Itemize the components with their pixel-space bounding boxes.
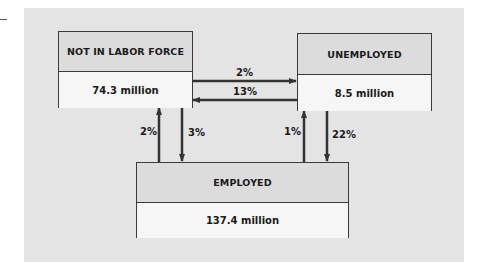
node-title: NOT IN LABOR FORCE — [59, 32, 192, 72]
node-value: 8.5 million — [298, 75, 431, 111]
node-employed: EMPLOYED 137.4 million — [136, 162, 349, 238]
flow-label-employed-to-nlf: 2% — [140, 126, 157, 137]
flow-label-nlf-to-unemployed: 2% — [236, 67, 253, 78]
flow-label-unemployed-to-nlf: 13% — [233, 86, 257, 97]
node-not-in-labor-force: NOT IN LABOR FORCE 74.3 million — [58, 31, 193, 108]
flow-label-nlf-to-employed: 3% — [188, 127, 205, 138]
node-value: 137.4 million — [137, 203, 348, 238]
node-value: 74.3 million — [59, 72, 192, 108]
node-title: UNEMPLOYED — [298, 34, 431, 75]
node-title: EMPLOYED — [137, 163, 348, 203]
flow-label-unemployed-to-employed: 22% — [332, 129, 356, 140]
node-unemployed: UNEMPLOYED 8.5 million — [297, 33, 432, 111]
flow-label-employed-to-unemployed: 1% — [284, 126, 301, 137]
